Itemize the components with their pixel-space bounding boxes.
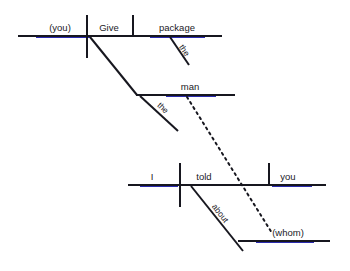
word-indirect-object-man: man: [181, 81, 199, 92]
word-verb-give: Give: [99, 22, 119, 33]
word-relative-verb-told: told: [196, 171, 211, 182]
relative-pronoun-reference-dotted-line: [187, 97, 272, 233]
word-relative-subject-i: I: [151, 171, 154, 182]
preposition-slant-about: [191, 186, 243, 251]
word-subject-you: (you): [49, 22, 71, 33]
indirect-object-group: man the: [90, 37, 235, 131]
article-slant-the-man: [140, 96, 178, 131]
word-article-the-package: the: [177, 43, 192, 59]
sentence-diagram-canvas: (you) Give package the man the I told yo…: [0, 0, 350, 271]
give-to-man-connector: [90, 37, 137, 95]
word-relative-object-you: you: [280, 171, 295, 182]
prepositional-object-group: (whom): [238, 227, 330, 243]
diagram-svg: (you) Give package the man the I told yo…: [0, 0, 350, 271]
word-object-package: package: [159, 22, 195, 33]
word-prepositional-object-whom: (whom): [272, 227, 304, 238]
main-clause-group: (you) Give package the: [18, 15, 222, 65]
